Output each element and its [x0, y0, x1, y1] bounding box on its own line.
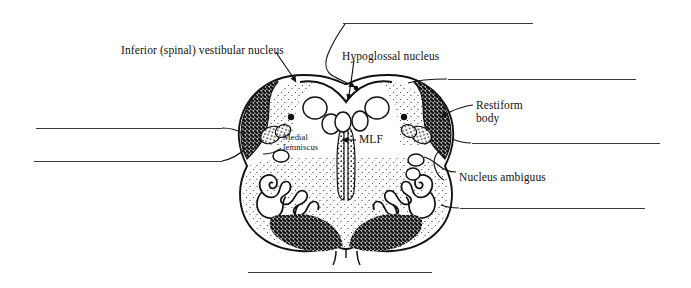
- answer-blank-left-1[interactable]: [36, 128, 222, 129]
- medulla-cross-section-diagram: [0, 0, 691, 288]
- answer-blank-right-1[interactable]: [448, 79, 636, 80]
- answer-blank-right-3[interactable]: [460, 208, 645, 209]
- answer-blank-bottom[interactable]: [248, 272, 432, 273]
- label-mlf: MLF: [359, 133, 383, 147]
- label-nucleus-ambiguus: Nucleus ambiguus: [459, 171, 546, 185]
- figure-canvas: Inferior (spinal) vestibular nucleus Hyp…: [0, 0, 691, 288]
- label-restiform-body-line1: Restiform: [476, 99, 523, 113]
- answer-blank-top[interactable]: [343, 23, 533, 24]
- label-restiform-body-line2: body: [476, 112, 499, 126]
- answer-blank-left-2[interactable]: [34, 161, 222, 162]
- label-inferior-spinal-vestibular-nucleus: Inferior (spinal) vestibular nucleus: [121, 44, 284, 58]
- answer-blank-right-2[interactable]: [472, 143, 660, 144]
- label-medial-lemniscus-line2: lemniscus: [283, 143, 318, 153]
- label-hypoglossal-nucleus: Hypoglossal nucleus: [342, 50, 439, 64]
